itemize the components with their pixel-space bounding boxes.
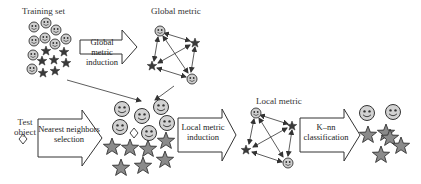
knn-classification-line2: classification xyxy=(300,132,352,142)
star-icon xyxy=(241,145,251,154)
smiley-face-icon xyxy=(135,109,150,124)
smiley-face-icon xyxy=(40,33,50,43)
nearest-neighbors-selection-text: Nearest neighbors selection xyxy=(38,124,100,144)
training-set-cluster xyxy=(27,18,71,77)
smiley-face-icon xyxy=(142,126,157,141)
smiley-face-icon xyxy=(61,34,71,44)
knn-metric-learning-diagram: Training set Global metric Local metric … xyxy=(0,0,421,184)
diamond-icon xyxy=(130,128,138,138)
local-metric-graph xyxy=(241,108,297,168)
local-metric-induction-line1: Local metric xyxy=(178,122,228,132)
smiley-face-icon xyxy=(41,18,51,28)
smiley-face-icon xyxy=(155,26,165,36)
test-object-label: Test object xyxy=(14,117,36,137)
training-to-neighbors-connector xyxy=(67,80,141,101)
test-object-label-line1: Test xyxy=(14,117,36,127)
diagram-graphics xyxy=(0,0,421,184)
star-icon xyxy=(41,46,51,55)
global-metric-induction-line1: Global metric xyxy=(80,37,124,57)
local-metric-label: Local metric xyxy=(256,96,302,106)
metric-to-neighbors-connector xyxy=(155,86,174,100)
classification-result-cluster xyxy=(359,105,409,163)
star-icon xyxy=(147,61,157,70)
star-icon xyxy=(50,66,60,75)
smiley-face-icon xyxy=(29,22,39,32)
global-metric-label: Global metric xyxy=(151,6,201,16)
smiley-face-icon xyxy=(50,39,60,49)
star-icon xyxy=(359,126,376,142)
smiley-face-icon xyxy=(386,105,401,120)
star-icon xyxy=(49,55,59,64)
smiley-face-icon xyxy=(51,25,61,35)
nearest-neighbors-selection-line1: Nearest neighbors xyxy=(38,124,100,134)
star-icon xyxy=(372,146,389,162)
star-icon xyxy=(59,47,69,56)
star-icon xyxy=(37,56,47,65)
star-icon xyxy=(112,159,129,175)
star-icon xyxy=(38,68,48,77)
star-icon xyxy=(190,38,200,47)
smiley-face-icon xyxy=(27,64,37,74)
star-icon xyxy=(287,121,297,130)
star-icon xyxy=(139,140,156,156)
knn-classification-text: K–nn classification xyxy=(300,122,352,142)
nearest-neighbors-selection-line2: selection xyxy=(38,134,100,144)
global-metric-induction-text: Global metric induction xyxy=(80,37,124,67)
local-metric-induction-line2: induction xyxy=(178,132,228,142)
smiley-face-icon xyxy=(154,100,169,115)
star-icon xyxy=(157,132,174,148)
star-icon xyxy=(134,157,151,173)
knn-classification-line1: K–nn xyxy=(300,122,352,132)
global-metric-graph xyxy=(147,26,200,84)
smiley-face-icon xyxy=(160,116,175,131)
neighbor-set-cluster xyxy=(103,100,174,176)
smiley-face-icon xyxy=(251,108,261,118)
smiley-face-icon xyxy=(283,158,293,168)
smiley-face-icon xyxy=(28,50,38,60)
star-icon xyxy=(121,139,138,155)
training-set-label: Training set xyxy=(22,6,65,16)
smiley-face-icon xyxy=(187,74,197,84)
star-icon xyxy=(61,58,71,67)
star-icon xyxy=(156,151,173,167)
smiley-face-icon xyxy=(360,106,375,121)
smiley-face-icon xyxy=(113,120,128,135)
star-icon xyxy=(392,137,409,153)
local-metric-induction-text: Local metric induction xyxy=(178,122,228,142)
smiley-face-icon xyxy=(29,36,39,46)
star-icon xyxy=(103,138,120,154)
test-object-label-line2: object xyxy=(14,127,36,137)
global-metric-induction-line2: induction xyxy=(80,57,124,67)
smiley-face-icon xyxy=(115,102,130,117)
